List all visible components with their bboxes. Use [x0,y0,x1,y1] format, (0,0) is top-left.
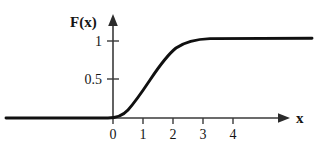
x-axis-arrowhead [278,113,290,123]
y-tick-label-one: 1 [95,34,102,49]
cdf-curve [6,38,312,118]
x-axis-title: x [296,110,304,126]
y-tick-label-half: 0.5 [85,72,103,87]
y-axis-title: F(x) [70,14,97,31]
x-tick-label-1: 1 [140,127,147,142]
plot-area: F(x) x 1 0.5 0 1 2 3 4 [0,0,328,149]
cdf-chart-figure: F(x) x 1 0.5 0 1 2 3 4 [0,0,328,149]
x-tick-label-3: 3 [200,127,207,142]
x-tick-label-4: 4 [230,127,237,142]
y-axis-arrowhead [108,14,118,26]
x-tick-label-0: 0 [110,127,117,142]
x-tick-label-2: 2 [170,127,177,142]
